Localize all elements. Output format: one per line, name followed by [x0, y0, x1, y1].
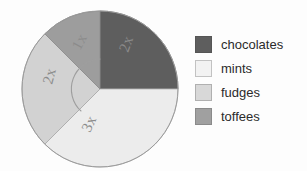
pie-chart-page: 2x 3x 2x 1x chocolates mints fudges toff… — [0, 0, 307, 171]
legend-label-mints: mints — [221, 62, 252, 75]
legend-swatch-chocolates — [195, 36, 212, 53]
legend-label-toffees: toffees — [221, 110, 260, 123]
legend-item-chocolates[interactable]: chocolates — [195, 33, 303, 56]
pie-chart-svg: 2x 3x 2x 1x — [18, 7, 184, 171]
pie-slice-chocolates[interactable] — [100, 11, 178, 89]
legend-swatch-mints — [195, 60, 212, 77]
pie-chart: 2x 3x 2x 1x — [18, 7, 184, 171]
legend-label-fudges: fudges — [221, 86, 260, 99]
legend-swatch-fudges — [195, 84, 212, 101]
legend-swatch-toffees — [195, 108, 212, 125]
legend-item-mints[interactable]: mints — [195, 57, 303, 80]
chart-legend: chocolates mints fudges toffees — [195, 33, 303, 129]
legend-item-toffees[interactable]: toffees — [195, 105, 303, 128]
legend-item-fudges[interactable]: fudges — [195, 81, 303, 104]
legend-label-chocolates: chocolates — [221, 38, 283, 51]
